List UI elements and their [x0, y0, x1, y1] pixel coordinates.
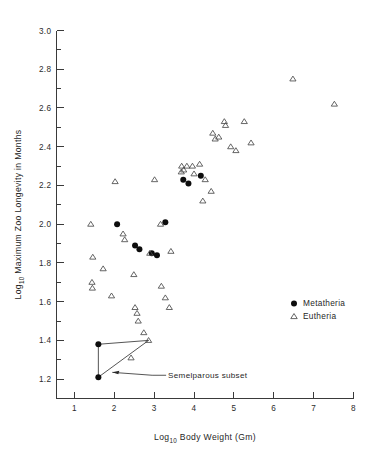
- legend-label-eutheria: Eutheria: [303, 311, 336, 321]
- data-point-metatheria: [114, 221, 120, 227]
- data-point-eutheria: [248, 140, 254, 145]
- y-tick-label: 3.0: [39, 27, 52, 36]
- x-tick-label: 6: [271, 404, 276, 413]
- data-point-eutheria: [189, 163, 195, 168]
- y-tick-label: 2.8: [39, 65, 52, 74]
- y-tick-label: 2.0: [39, 220, 52, 229]
- y-tick-label: 1.4: [39, 336, 52, 345]
- data-point-eutheria: [120, 231, 126, 236]
- y-tick-label: 1.6: [39, 298, 52, 307]
- data-point-eutheria: [241, 119, 247, 124]
- data-point-eutheria: [135, 318, 141, 323]
- x-tick-label: 3: [152, 404, 157, 413]
- data-point-eutheria: [88, 221, 94, 226]
- semelparous-hull: [98, 340, 148, 377]
- y-tick-label: 1.8: [39, 259, 52, 268]
- scatter-plot-figure: 1.21.41.61.82.02.22.42.62.83.012345678 S…: [0, 0, 390, 453]
- data-point-metatheria: [185, 181, 191, 187]
- data-point-eutheria: [216, 134, 222, 139]
- legend-label-metatheria: Metatheria: [303, 298, 345, 308]
- y-axis-title-rest: Maximum Zoo Longevity in Months: [13, 130, 23, 277]
- x-tick-label: 4: [192, 404, 197, 413]
- data-point-eutheria: [197, 161, 203, 166]
- data-point-metatheria: [180, 177, 186, 183]
- x-tick-label: 1: [72, 404, 77, 413]
- annotation-arrowhead: [112, 371, 119, 375]
- legend-marker-metatheria: [291, 301, 297, 307]
- data-point-eutheria: [208, 188, 214, 193]
- axis-titles: Log10 Body Weight (Gm)Log10 Maximum Zoo …: [13, 130, 256, 444]
- data-point-eutheria: [151, 177, 157, 182]
- data-point-eutheria: [145, 338, 151, 343]
- data-point-eutheria: [200, 198, 206, 203]
- data-point-eutheria: [158, 283, 164, 288]
- axis-tick-labels: 1.21.41.61.82.02.22.42.62.83.012345678: [39, 27, 356, 413]
- x-tick-label: 2: [112, 404, 117, 413]
- data-point-eutheria: [90, 254, 96, 259]
- data-point-eutheria: [221, 119, 227, 124]
- data-point-eutheria: [290, 76, 296, 81]
- data-point-eutheria: [210, 130, 216, 135]
- data-point-metatheria: [154, 252, 160, 258]
- y-tick-label: 2.6: [39, 104, 52, 113]
- data-point-metatheria: [198, 173, 204, 179]
- data-point-eutheria: [134, 310, 140, 315]
- data-point-metatheria: [162, 219, 168, 225]
- data-point-eutheria: [131, 272, 137, 277]
- y-axis-title-main: Log: [13, 284, 23, 299]
- y-tick-label: 2.4: [39, 143, 52, 152]
- data-point-eutheria: [228, 144, 234, 149]
- x-axis-title-rest: Body Weight (Gm): [177, 432, 256, 442]
- legend: MetatheriaEutheria: [291, 298, 346, 321]
- data-point-eutheria: [112, 179, 118, 184]
- data-point-eutheria: [108, 293, 114, 298]
- x-axis-title: Log10 Body Weight (Gm): [154, 432, 256, 444]
- data-point-metatheria: [95, 341, 101, 347]
- legend-marker-eutheria: [291, 314, 297, 319]
- data-point-eutheria: [100, 266, 106, 271]
- data-point-eutheria: [162, 295, 168, 300]
- data-point-eutheria: [132, 305, 138, 310]
- annotation-leader-line: [112, 372, 166, 375]
- x-tick-label: 8: [351, 404, 356, 413]
- data-point-eutheria: [331, 101, 337, 106]
- data-point-eutheria: [166, 305, 172, 310]
- annotation-label: Semelparous subset: [168, 371, 248, 380]
- data-point-eutheria: [89, 285, 95, 290]
- x-tick-label: 5: [231, 404, 236, 413]
- data-point-eutheria: [191, 171, 197, 176]
- data-point-metatheria: [95, 374, 101, 380]
- data-point-eutheria: [168, 248, 174, 253]
- data-point-eutheria: [89, 279, 95, 284]
- data-point-eutheria: [128, 355, 134, 360]
- data-point-eutheria: [141, 330, 147, 335]
- y-tick-label: 2.2: [39, 181, 52, 190]
- data-points: [88, 76, 338, 380]
- y-axis-title: Log10 Maximum Zoo Longevity in Months: [13, 130, 25, 300]
- annotations: Semelparous subset: [98, 340, 247, 380]
- plot-canvas: 1.21.41.61.82.02.22.42.62.83.012345678 S…: [0, 0, 390, 453]
- x-axis-title-main: Log: [154, 432, 169, 442]
- data-point-eutheria: [184, 163, 190, 168]
- y-tick-label: 1.2: [39, 375, 52, 384]
- x-axis-title-subscript: 10: [169, 437, 177, 444]
- y-axis-title-subscript: 10: [18, 276, 25, 284]
- x-tick-label: 7: [311, 404, 316, 413]
- data-point-eutheria: [122, 237, 128, 242]
- data-point-metatheria: [136, 246, 142, 252]
